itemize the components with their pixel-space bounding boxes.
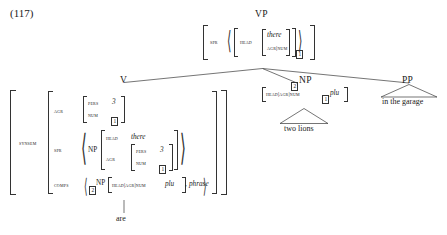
figure-canvas: (117) VP SPR ⟨ ⟩ HEAD there AGR|NUM 1 V …	[0, 0, 447, 235]
v-comps-phrase-type: phrase	[189, 180, 209, 188]
pp-triangle-text: in the garage	[382, 97, 423, 106]
v-agr-bracket-right	[121, 96, 125, 123]
np-agr-value: plu	[330, 89, 339, 97]
edge-vp-pp	[263, 69, 410, 84]
v-comps-label: COMPS	[54, 181, 69, 188]
vp-spr-label: SPR	[210, 38, 218, 45]
v-agr-label: AGR	[54, 107, 63, 114]
v-spr-angle-close: ⟩	[180, 128, 186, 168]
v-comps-comma: ,	[185, 180, 187, 188]
vp-agr-path: AGR|NUM	[267, 44, 287, 51]
vp-avm-bracket-left	[203, 25, 208, 60]
v-spr-agr-num-tag: 1	[159, 159, 166, 177]
np-path: HEAD|AGR|NUM	[266, 90, 300, 97]
vp-list-angle-open: ⟨	[227, 27, 232, 55]
np-avm-bracket-right	[344, 87, 348, 102]
v-synsem-label: SYNSEM	[19, 139, 36, 146]
v-avm-bracket-left	[10, 90, 16, 195]
v-spr-np-cat: NP	[88, 146, 97, 154]
v-spr-np-bracket-left	[101, 130, 105, 170]
v-agr-bracket-left	[83, 96, 87, 123]
v-agr-num-tag: 1	[111, 111, 118, 129]
v-spr-head-label: HEAD	[106, 134, 118, 141]
np-triangle-text: two lions	[284, 124, 314, 133]
pp-triangle	[381, 85, 437, 98]
v-comps-np-path: HEAD|AGR|NUM	[112, 181, 146, 188]
vp-head-there: there	[267, 31, 282, 39]
v-agr-pers-label: PERS	[88, 99, 98, 106]
v-spr-agr-pers-value: 3	[160, 146, 164, 154]
vp-head-value-bracket-left	[262, 29, 266, 56]
v-spr-agr-pers-label: PERS	[136, 147, 146, 154]
vp-head-label: HEAD	[240, 38, 252, 45]
v-comps-np-bracket-left	[108, 177, 112, 193]
v-comps-np-cat: NP	[96, 179, 105, 187]
node-label-pp: PP	[402, 75, 413, 85]
v-agr-num-label: NUM	[88, 111, 98, 118]
v-spr-agr-num-label: NUM	[136, 159, 146, 166]
v-spr-head-value: there	[131, 133, 146, 141]
v-spr-angle-open: ⟨	[81, 128, 87, 168]
edge-vp-v	[124, 69, 263, 83]
node-label-vp: VP	[255, 9, 268, 19]
v-spr-np-bracket-right	[174, 130, 178, 170]
v-synsem-bracket-left	[48, 91, 53, 194]
np-triangle	[280, 109, 328, 124]
v-comps-angle-open: ⟨	[84, 175, 88, 197]
v-spr-agr-label: AGR	[106, 155, 115, 162]
np-agr-tag: 1	[322, 89, 329, 107]
np-avm-bracket-left	[262, 87, 266, 102]
word-are: are	[116, 214, 126, 223]
v-comps-np-value: plu	[165, 180, 174, 188]
vp-head-value-bracket-right	[286, 29, 290, 56]
node-label-v: V	[120, 75, 127, 85]
vp-avm-bracket-right	[310, 25, 315, 60]
vp-agr-tag: 1	[296, 44, 303, 62]
vp-inner-bracket-left	[234, 28, 238, 57]
node-label-np: NP	[299, 75, 312, 85]
v-spr-agr-bracket-right	[169, 144, 173, 171]
v-spr-label: SPR	[54, 146, 62, 153]
v-agr-pers-value: 3	[112, 98, 116, 106]
v-avm-bracket-right	[221, 90, 227, 195]
v-synsem-bracket-right	[212, 91, 217, 194]
v-spr-agr-bracket-left	[131, 144, 135, 171]
